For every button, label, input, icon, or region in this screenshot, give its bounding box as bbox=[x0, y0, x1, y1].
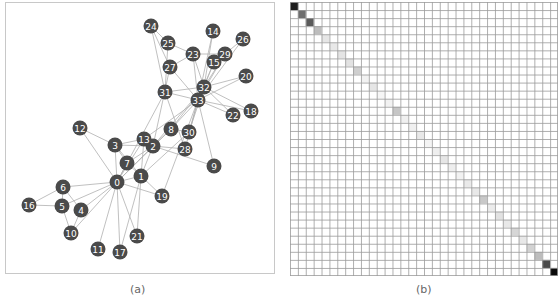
graph-node: 16 bbox=[22, 198, 37, 213]
diagonal-cell bbox=[329, 42, 337, 50]
graph-node: 10 bbox=[64, 226, 79, 241]
graph-node: 26 bbox=[236, 32, 251, 47]
graph-node: 28 bbox=[178, 142, 193, 157]
diagonal-cell bbox=[369, 83, 377, 91]
graph-node: 13 bbox=[137, 132, 152, 147]
adjacency-matrix-grid bbox=[290, 2, 558, 276]
graph-node: 23 bbox=[186, 47, 201, 62]
diagonal-cell bbox=[416, 131, 424, 139]
graph-node: 29 bbox=[218, 47, 233, 62]
node-label: 28 bbox=[179, 145, 191, 155]
node-label: 2 bbox=[150, 142, 156, 152]
graph-node: 20 bbox=[239, 69, 254, 84]
graph-edge bbox=[198, 100, 251, 111]
graph-node: 17 bbox=[113, 245, 128, 260]
diagonal-cell bbox=[534, 252, 542, 260]
node-label: 1 bbox=[138, 172, 144, 182]
diagonal-cell bbox=[345, 58, 353, 66]
graph-node: 6 bbox=[56, 180, 71, 195]
graph-node: 19 bbox=[155, 189, 170, 204]
caption-b: (b) bbox=[416, 283, 432, 296]
graph-edge bbox=[204, 87, 251, 111]
node-label: 23 bbox=[187, 50, 198, 60]
node-label: 19 bbox=[156, 192, 168, 202]
graph-node: 4 bbox=[74, 203, 89, 218]
graph-edge bbox=[117, 182, 120, 252]
graph-node: 7 bbox=[120, 156, 135, 171]
diagonal-cell bbox=[377, 91, 385, 99]
diagonal-cell bbox=[298, 10, 306, 18]
diagonal-cell bbox=[314, 26, 322, 34]
node-label: 33 bbox=[192, 96, 203, 106]
diagonal-cell bbox=[519, 236, 527, 244]
graph-node: 5 bbox=[55, 199, 70, 214]
graph-edge bbox=[80, 128, 117, 182]
node-label: 4 bbox=[78, 206, 84, 216]
node-label: 13 bbox=[138, 135, 149, 145]
node-label: 22 bbox=[227, 111, 238, 121]
diagonal-cell bbox=[408, 123, 416, 131]
graph-node: 21 bbox=[130, 229, 145, 244]
matrix-panel bbox=[290, 2, 558, 276]
graph-node: 14 bbox=[206, 24, 221, 39]
diagonal-cell bbox=[440, 155, 448, 163]
caption-a: (a) bbox=[130, 283, 145, 296]
graph-edge bbox=[137, 176, 141, 236]
diagonal-cell bbox=[290, 2, 298, 10]
graph-node: 25 bbox=[161, 36, 176, 51]
node-label: 27 bbox=[164, 63, 175, 73]
node-label: 32 bbox=[198, 83, 209, 93]
node-label: 30 bbox=[183, 128, 195, 138]
node-label: 17 bbox=[114, 248, 125, 258]
node-label: 20 bbox=[240, 72, 252, 82]
diagonal-cell bbox=[550, 268, 558, 276]
node-label: 8 bbox=[168, 125, 174, 135]
node-label: 26 bbox=[237, 35, 249, 45]
graph-edge bbox=[151, 26, 165, 92]
diagonal-cell bbox=[456, 171, 464, 179]
diagonal-cell bbox=[385, 99, 393, 107]
node-label: 24 bbox=[145, 22, 157, 32]
diagonal-cell bbox=[400, 115, 408, 123]
graph-node: 27 bbox=[163, 60, 178, 75]
graph-node: 24 bbox=[144, 19, 159, 34]
diagonal-cell bbox=[392, 107, 400, 115]
node-label: 15 bbox=[208, 58, 219, 68]
graph-node: 30 bbox=[182, 125, 197, 140]
node-label: 21 bbox=[131, 232, 142, 242]
graph-node: 3 bbox=[108, 138, 123, 153]
network-graph: 0123456789101112131415161718192021222324… bbox=[6, 3, 274, 273]
graph-node: 31 bbox=[158, 85, 173, 100]
graph-panel: 0123456789101112131415161718192021222324… bbox=[5, 2, 275, 274]
graph-node: 12 bbox=[73, 121, 88, 136]
graph-node: 9 bbox=[207, 159, 222, 174]
diagonal-cell bbox=[337, 50, 345, 58]
graph-node: 32 bbox=[197, 80, 212, 95]
node-label: 29 bbox=[219, 50, 231, 60]
diagonal-cell bbox=[526, 244, 534, 252]
diagonal-cell bbox=[487, 203, 495, 211]
node-label: 16 bbox=[23, 201, 35, 211]
graph-edge bbox=[165, 92, 185, 149]
diagonal-cell bbox=[361, 75, 369, 83]
graph-node: 33 bbox=[191, 93, 206, 108]
diagonal-cell bbox=[495, 212, 503, 220]
graph-node: 11 bbox=[91, 242, 106, 257]
diagonal-cell bbox=[511, 228, 519, 236]
graph-node: 0 bbox=[110, 175, 125, 190]
graph-edge bbox=[198, 100, 214, 166]
diagonal-cell bbox=[424, 139, 432, 147]
diagonal-cell bbox=[463, 179, 471, 187]
node-label: 7 bbox=[124, 159, 130, 169]
diagonal-cell bbox=[448, 163, 456, 171]
graph-node: 18 bbox=[244, 104, 259, 119]
node-label: 5 bbox=[59, 202, 65, 212]
node-label: 31 bbox=[159, 88, 170, 98]
diagonal-cell bbox=[471, 187, 479, 195]
graph-node: 22 bbox=[226, 108, 241, 123]
node-label: 6 bbox=[60, 183, 66, 193]
diagonal-cell bbox=[432, 147, 440, 155]
node-label: 12 bbox=[74, 124, 85, 134]
graph-edge bbox=[63, 182, 117, 187]
diagonal-cell bbox=[306, 18, 314, 26]
